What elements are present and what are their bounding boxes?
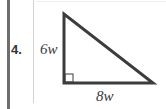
- vertical-leg-label: 6w: [40, 41, 58, 58]
- right-triangle-figure: [0, 0, 166, 109]
- horizontal-leg-label: 8w: [96, 88, 114, 105]
- right-angle-marker: [65, 74, 73, 82]
